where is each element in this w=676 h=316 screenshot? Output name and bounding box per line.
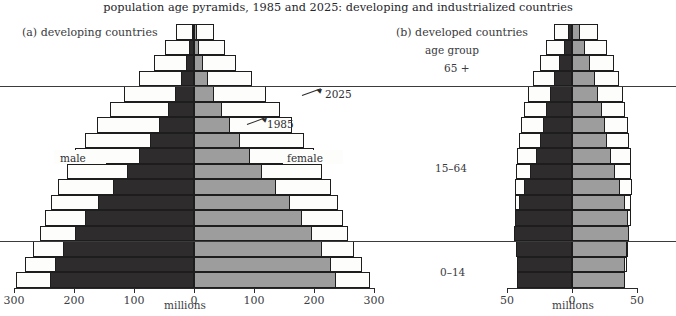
bar-1985-male-developed [543, 117, 572, 133]
bar-1985-female-developed [572, 241, 627, 257]
age-group-15-64: 15–64 [435, 162, 467, 174]
bar-1985-female-developed [572, 210, 628, 226]
bar-1985-male-developed [536, 148, 572, 164]
male-label: male [60, 152, 86, 164]
figure-population-age-pyramids: population age pyramids, 1985 and 2025: … [0, 0, 676, 316]
bar-1985-male-developed [517, 272, 572, 288]
bar-1985-male-developed [550, 86, 572, 102]
bar-1985-female-developed [572, 226, 629, 242]
axis-tick-developed-2 [637, 288, 638, 293]
bar-1985-female-developed [572, 272, 625, 288]
bar-1985-female-developed [572, 164, 615, 180]
center-axis-developed [572, 24, 573, 288]
age-group-65plus: 65 + [444, 62, 470, 74]
bar-1985-male-developed [546, 102, 572, 118]
bar-1985-male-developed [554, 71, 572, 87]
axis-caption-right: millions [552, 299, 594, 311]
bar-1985-female-developed [572, 102, 602, 118]
bar-1985-male-developed [559, 55, 572, 71]
annotation-2025: 2025 [325, 88, 352, 100]
bar-1985-female-developed [572, 179, 620, 195]
bar-1985-female-developed [572, 71, 595, 87]
bar-1985-male-developed [516, 241, 572, 257]
age-group-0-14: 0–14 [440, 266, 465, 278]
bar-1985-female-developed [572, 24, 580, 40]
bar-1985-female-developed [572, 117, 605, 133]
bar-1985-male-developed [514, 226, 573, 242]
age-group-caption: age group [425, 44, 479, 56]
bar-1985-female-developed [572, 195, 625, 211]
bar-1985-female-developed [572, 40, 585, 56]
bar-1985-male-developed [524, 179, 572, 195]
axis-tick-developed-0 [507, 288, 508, 293]
axis-tick-label-developed-2: 50 [630, 294, 644, 307]
bar-1985-female-developed [572, 86, 598, 102]
bar-1985-male-developed [517, 257, 572, 273]
axis-caption-left: millions [164, 299, 206, 311]
bar-1985-female-developed [572, 55, 590, 71]
female-label: female [287, 152, 323, 164]
panel-b-label: (b) developed countries [396, 26, 528, 39]
annotation-1985: 1985 [267, 118, 294, 130]
chart-title: population age pyramids, 1985 and 2025: … [103, 1, 573, 14]
panel-a-label: (a) developing countries [22, 26, 158, 39]
bar-1985-female-developed [572, 133, 607, 149]
axis-tick-developed-1 [572, 288, 573, 293]
bar-1985-male-developed [515, 210, 572, 226]
bar-1985-male-developed [540, 133, 573, 149]
divider-0-14 [0, 241, 676, 242]
bar-1985-female-developed [572, 257, 625, 273]
bar-1985-male-developed [530, 164, 572, 180]
axis-tick-label-developed-0: 50 [500, 294, 514, 307]
bar-1985-male-developed [564, 40, 572, 56]
bar-1985-female-developed [572, 148, 611, 164]
bar-1985-male-developed [519, 195, 572, 211]
divider-65plus [0, 86, 676, 87]
